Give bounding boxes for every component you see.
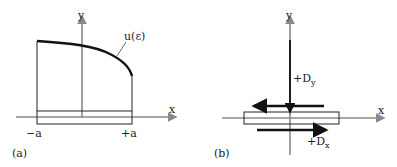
panel-a: u(ε) y x −a +a (a): [12, 9, 176, 160]
panel-b: y x +Dy +Dx (b): [214, 9, 385, 160]
plus-a-label: +a: [121, 127, 137, 140]
y-axis-label: y: [77, 9, 85, 22]
x-axis-label: x: [378, 104, 385, 117]
u-curve: [37, 41, 132, 76]
figure: u(ε) y x −a +a (a) y x +Dy +Dx (b): [0, 0, 397, 167]
curve-leader-line: [117, 42, 126, 56]
panel-b-caption: (b): [214, 147, 230, 160]
curve-label: u(ε): [124, 30, 145, 43]
dx-label: +Dx: [307, 135, 330, 150]
y-axis-label: y: [285, 9, 293, 22]
minus-a-label: −a: [26, 127, 42, 140]
x-axis-label: x: [169, 103, 176, 116]
dy-label: +Dy: [293, 72, 316, 87]
panel-a-caption: (a): [12, 147, 27, 160]
